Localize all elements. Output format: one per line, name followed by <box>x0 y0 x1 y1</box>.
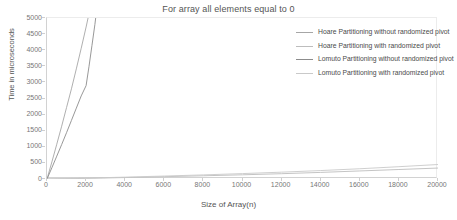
chart-legend: Hoare Partitioning without randomized pi… <box>296 28 454 82</box>
x-tick-label: 14000 <box>310 181 329 188</box>
x-tick-label: 2000 <box>77 181 93 188</box>
series-line-3 <box>47 18 97 179</box>
y-tick-label: 0 <box>6 175 42 182</box>
x-tick-mark <box>359 178 360 181</box>
legend-item-2[interactable]: Hoare Partitioning with randomized pivot <box>296 42 454 51</box>
legend-item-3[interactable]: Lomuto Partitioning without randomized p… <box>296 55 454 64</box>
legend-swatch-icon <box>296 73 313 74</box>
x-tick-mark <box>281 178 282 181</box>
legend-label: Lomuto Partitioning with randomized pivo… <box>318 69 444 78</box>
x-tick-mark <box>242 178 243 181</box>
legend-item-1[interactable]: Hoare Partitioning without randomized pi… <box>296 28 454 37</box>
y-tick-mark <box>42 114 45 115</box>
legend-swatch-icon <box>296 46 313 47</box>
legend-swatch-icon <box>296 32 313 33</box>
x-tick-label: 18000 <box>388 181 407 188</box>
chart-container: For array all elements equal to 0 Time i… <box>0 0 457 220</box>
x-tick-mark <box>202 178 203 181</box>
y-tick-mark <box>42 49 45 50</box>
series-line-1 <box>47 18 92 179</box>
chart-title: For array all elements equal to 0 <box>0 4 457 14</box>
x-tick-mark <box>320 178 321 181</box>
y-tick-label: 1500 <box>6 126 42 133</box>
x-tick-label: 12000 <box>271 181 290 188</box>
x-tick-mark <box>163 178 164 181</box>
x-tick-label: 20000 <box>427 181 446 188</box>
y-tick-label: 4500 <box>6 30 42 37</box>
y-tick-label: 2000 <box>6 110 42 117</box>
y-tick-mark <box>42 98 45 99</box>
y-tick-label: 4000 <box>6 46 42 53</box>
x-tick-mark <box>124 178 125 181</box>
x-tick-mark <box>437 178 438 181</box>
x-tick-label: 8000 <box>195 181 211 188</box>
legend-item-4[interactable]: Lomuto Partitioning with randomized pivo… <box>296 69 454 78</box>
x-tick-label: 6000 <box>156 181 172 188</box>
y-axis-ticks: 0500100015002000250030003500400045005000 <box>0 0 42 220</box>
x-axis-title: Size of Array(n) <box>0 200 457 209</box>
legend-label: Lomuto Partitioning without randomized p… <box>318 55 454 64</box>
y-tick-mark <box>42 162 45 163</box>
y-tick-label: 3500 <box>6 62 42 69</box>
y-tick-label: 3000 <box>6 78 42 85</box>
x-tick-label: 16000 <box>349 181 368 188</box>
x-tick-mark <box>46 178 47 181</box>
y-tick-label: 500 <box>6 158 42 165</box>
series-line-4 <box>47 165 438 179</box>
y-tick-mark <box>42 81 45 82</box>
legend-label: Hoare Partitioning with randomized pivot <box>318 42 440 51</box>
y-tick-mark <box>42 178 45 179</box>
x-tick-label: 0 <box>44 181 48 188</box>
y-tick-label: 5000 <box>6 14 42 21</box>
y-tick-mark <box>42 146 45 147</box>
y-tick-mark <box>42 17 45 18</box>
y-tick-mark <box>42 65 45 66</box>
y-tick-mark <box>42 33 45 34</box>
x-tick-mark <box>398 178 399 181</box>
y-tick-label: 2500 <box>6 94 42 101</box>
legend-label: Hoare Partitioning without randomized pi… <box>318 28 449 37</box>
x-tick-label: 4000 <box>116 181 132 188</box>
x-tick-label: 10000 <box>232 181 251 188</box>
legend-swatch-icon <box>296 59 313 60</box>
y-tick-label: 1000 <box>6 142 42 149</box>
y-tick-mark <box>42 130 45 131</box>
x-tick-mark <box>85 178 86 181</box>
